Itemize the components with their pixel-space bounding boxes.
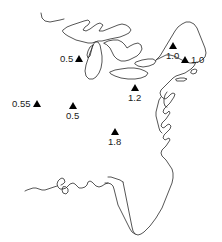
gulf-coast-west-outline [25,186,57,191]
long-island-outline [176,78,187,81]
triangle-marker-icon [131,84,139,91]
chesapeake-bay-detail [156,97,162,133]
station-marker-3[interactable]: 1.2 [128,84,141,103]
inland-boundary-southeast [108,177,123,182]
triangle-marker-icon [181,56,189,63]
station-value-label: 1.2 [128,93,141,103]
lake-superior-outline [63,20,131,43]
border-fragment-northwest [41,13,64,22]
green-bay-detail [87,45,93,58]
station-marker-6[interactable]: 1.8 [108,128,121,147]
station-value-label: 1.8 [108,137,121,147]
station-value-label: 1.0 [191,55,204,65]
triangle-marker-icon [33,100,41,107]
station-marker-2[interactable]: 1.0 [181,55,204,65]
coastline-map [0,0,222,242]
triangle-marker-icon [169,42,177,49]
cape-cod-outline [191,69,197,74]
station-marker-5[interactable]: 0.5 [66,102,79,121]
station-value-label: 0.5 [60,54,73,64]
lake-michigan-outline [85,42,102,79]
station-value-label: 0.5 [66,111,79,121]
station-marker-1[interactable]: 1.0 [166,42,179,61]
station-marker-4[interactable]: 0.55 [12,99,41,109]
station-value-label: 1.0 [166,51,179,61]
florida-peninsula-outline [105,183,135,234]
triangle-marker-icon [75,55,83,62]
triangle-marker-icon [69,102,77,109]
map-figure: 0.5 1.0 1.0 1.2 0.55 0.5 1.8 [0,0,222,242]
delaware-bay-detail [164,92,167,107]
lake-ontario-outline [135,59,156,67]
station-value-label: 0.55 [12,99,31,109]
triangle-marker-icon [111,128,119,135]
lake-erie-outline [110,68,148,79]
lake-huron-outline [104,40,142,61]
station-marker-0[interactable]: 0.5 [60,54,83,64]
